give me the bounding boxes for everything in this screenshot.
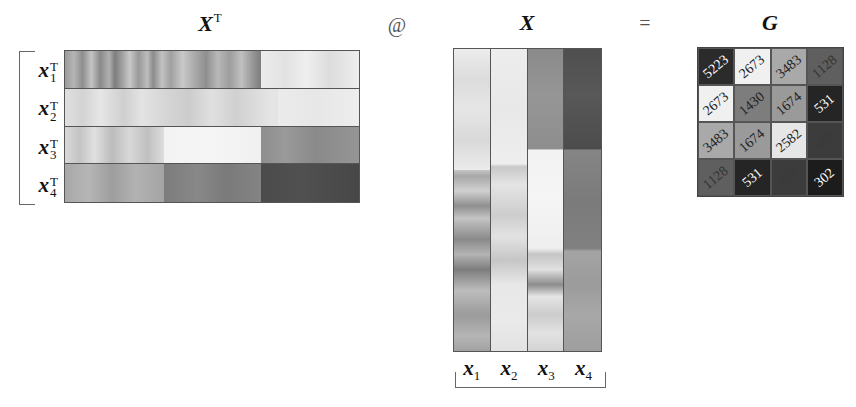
g-cell-r3-c4: 869 <box>807 122 843 159</box>
transpose-superscript: T <box>214 10 222 25</box>
xt-matrix <box>64 50 360 203</box>
g-cell-value: 869 <box>775 165 801 191</box>
x-col-2 <box>491 49 528 351</box>
g-cell-value: 3483 <box>773 51 805 81</box>
xt-row-label-3: xT3 <box>39 135 58 160</box>
g-matrix: 5223267334831128267314301674531348316742… <box>697 47 844 197</box>
g-cell-r4-c2: 531 <box>734 159 770 196</box>
xt-row-bracket <box>19 51 35 205</box>
x-title: X <box>520 10 535 36</box>
g-cell-value: 1674 <box>773 88 805 118</box>
equals-operator: = <box>639 12 650 35</box>
x-matrix <box>453 48 602 352</box>
g-cell-value: 1128 <box>809 52 840 82</box>
xt-row-label-2: xT2 <box>39 97 58 122</box>
g-cell-value: 869 <box>812 128 838 154</box>
g-cell-r3-c3: 2582 <box>771 122 807 159</box>
g-cell-r4-c4: 302 <box>807 159 843 196</box>
g-cell-value: 2673 <box>700 88 732 118</box>
x-col-1 <box>454 49 491 351</box>
xt-row-2 <box>65 89 359 127</box>
xt-row-label-4: xT4 <box>39 173 58 198</box>
g-cell-value: 1674 <box>737 125 769 155</box>
xt-row-3 <box>65 127 359 165</box>
x-col-bracket <box>455 372 606 388</box>
g-cell-r4-c3: 869 <box>771 159 807 196</box>
g-cell-r1-c2: 2673 <box>734 48 770 85</box>
g-cell-value: 2582 <box>773 125 805 155</box>
g-cell-r2-c2: 1430 <box>734 85 770 122</box>
xt-row-1 <box>65 51 359 89</box>
g-cell-value: 531 <box>739 165 765 191</box>
g-cell-r4-c1: 1128 <box>698 159 734 196</box>
g-cell-value: 302 <box>812 165 838 191</box>
xt-title-symbol: X <box>198 11 213 36</box>
xt-row-label-1: xT1 <box>39 59 58 84</box>
g-cell-r2-c3: 1674 <box>771 85 807 122</box>
g-cell-value: 1128 <box>700 163 731 193</box>
g-cell-value: 3483 <box>700 125 732 155</box>
g-cell-r1-c1: 5223 <box>698 48 734 85</box>
g-cell-value: 5223 <box>700 51 732 81</box>
matmul-operator: @ <box>388 14 406 37</box>
x-col-4 <box>564 49 601 351</box>
g-cell-value: 1430 <box>737 88 769 118</box>
g-cell-r2-c4: 531 <box>807 85 843 122</box>
g-cell-r3-c2: 1674 <box>734 122 770 159</box>
xt-row-4 <box>65 164 359 202</box>
g-cell-r2-c1: 2673 <box>698 85 734 122</box>
g-cell-r1-c4: 1128 <box>807 48 843 85</box>
g-cell-value: 531 <box>812 91 838 117</box>
g-cell-r1-c3: 3483 <box>771 48 807 85</box>
x-col-3 <box>528 49 565 351</box>
g-title: G <box>762 10 778 36</box>
g-cell-value: 2673 <box>737 51 769 81</box>
g-cell-r3-c1: 3483 <box>698 122 734 159</box>
xt-title: XT <box>198 10 222 37</box>
